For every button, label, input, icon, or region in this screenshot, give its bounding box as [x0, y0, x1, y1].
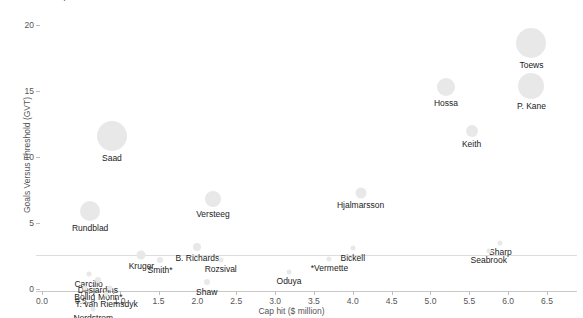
scatter-point[interactable] [486, 248, 491, 253]
y-tick-label: 0 [14, 284, 34, 294]
scatter-point-label: Seabrook [471, 255, 507, 265]
scatter-point[interactable] [205, 191, 221, 207]
scatter-point[interactable] [157, 257, 163, 263]
scatter-point[interactable] [437, 78, 455, 96]
scatter-point[interactable] [97, 121, 127, 151]
y-tick-mark [36, 289, 40, 290]
x-tick-label: 5.0 [425, 296, 437, 306]
scatter-point-label: Hossa [434, 98, 458, 108]
x-tick-mark [353, 291, 354, 295]
x-tick-label: 6.0 [502, 296, 514, 306]
chart-canvas: Blackhawks: cap hit versus GVT 05101520 … [0, 0, 583, 318]
scatter-point[interactable] [108, 285, 113, 290]
x-tick-label: 2.0 [191, 296, 203, 306]
scatter-point[interactable] [355, 187, 366, 198]
y-tick-mark [36, 25, 40, 26]
scatter-point[interactable] [82, 285, 87, 290]
x-tick-mark [392, 291, 393, 295]
x-tick-mark [236, 291, 237, 295]
scatter-point[interactable] [516, 28, 546, 58]
scatter-point[interactable] [91, 306, 96, 311]
scatter-point-label: Nordstrom [73, 313, 113, 318]
scatter-point-label: Bollig [74, 292, 95, 302]
scatter-point[interactable] [350, 246, 355, 251]
scatter-point[interactable] [137, 250, 146, 259]
x-tick-mark [275, 291, 276, 295]
scatter-point-label: Shaw [196, 287, 217, 297]
scatter-point-label: Rundblad [72, 223, 108, 233]
scatter-point[interactable] [498, 240, 503, 245]
scatter-point-label: Oduya [277, 276, 302, 286]
scatter-point-label: B. Richards [175, 253, 219, 263]
x-tick-mark [314, 291, 315, 295]
y-tick-mark [36, 223, 40, 224]
scatter-point[interactable] [204, 279, 210, 285]
y-tick-mark [36, 91, 40, 92]
scatter-point[interactable] [193, 243, 201, 251]
scatter-point[interactable] [104, 292, 109, 297]
scatter-point[interactable] [80, 201, 100, 221]
scatter-point-label: Smith* [148, 265, 173, 275]
x-tick-label: 6.5 [541, 296, 553, 306]
scatter-point[interactable] [466, 125, 478, 137]
scatter-point[interactable] [95, 277, 101, 283]
scatter-point-label: Versteeg [196, 209, 230, 219]
scatter-point-label: P. Kane [517, 101, 546, 111]
scatter-point-label: Hjalmarsson [337, 200, 384, 210]
scatter-point[interactable] [218, 257, 223, 262]
x-tick-label: 2.5 [230, 296, 242, 306]
scatter-point-label: Keith [462, 139, 481, 149]
x-tick-label: 3.5 [308, 296, 320, 306]
x-tick-mark [430, 291, 431, 295]
scatter-point[interactable] [518, 73, 544, 99]
scatter-point[interactable] [287, 269, 292, 274]
chart-title: Blackhawks: cap hit versus GVT [0, 0, 583, 1]
x-tick-mark [42, 291, 43, 295]
y-tick-mark [36, 157, 40, 158]
x-tick-label: 3.0 [269, 296, 281, 306]
scatter-point-label: Bickell [340, 253, 365, 263]
x-tick-mark [508, 291, 509, 295]
scatter-point-label: *Vermette [311, 263, 348, 273]
y-axis-label: Goals Versus Threshold (GVT) [22, 75, 32, 235]
x-tick-mark [469, 291, 470, 295]
scatter-point-label: Toews [519, 60, 543, 70]
x-tick-label: 1.5 [153, 296, 165, 306]
scatter-point-label: Saad [102, 153, 122, 163]
x-tick-label: 5.5 [463, 296, 475, 306]
scatter-point-label: Rozsival [205, 264, 237, 274]
x-tick-mark [547, 291, 548, 295]
x-tick-label: 0.0 [36, 296, 48, 306]
scatter-point[interactable] [327, 256, 332, 261]
x-tick-label: 4.5 [386, 296, 398, 306]
scatter-point[interactable] [86, 272, 91, 277]
y-tick-label: 20 [14, 20, 34, 30]
x-tick-label: 4.0 [347, 296, 359, 306]
x-tick-mark [159, 291, 160, 295]
